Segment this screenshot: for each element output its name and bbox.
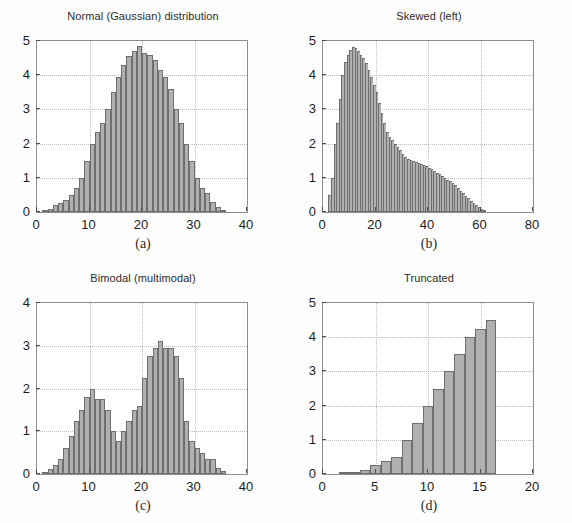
x-axis-tick-label: 40: [420, 217, 434, 232]
y-axis-tick-label: 4: [296, 67, 316, 82]
y-axis-tick-label: 2: [296, 135, 316, 150]
panel-b-caption: (b): [286, 236, 572, 252]
x-axis-tick-mark: [36, 469, 37, 473]
panel-b-plot-area: [322, 40, 534, 213]
x-axis-tick-mark: [246, 207, 247, 211]
y-axis-tick-mark: [322, 336, 326, 337]
y-axis-tick-label: 4: [10, 67, 30, 82]
x-axis-tick-mark: [89, 469, 90, 473]
panel-d-plot-area: [322, 302, 534, 475]
y-axis-tick-mark: [36, 302, 40, 303]
x-axis-tick-mark: [194, 469, 195, 473]
histogram-bar: [423, 406, 434, 474]
y-axis-tick-mark: [322, 370, 326, 371]
x-axis-tick-label: 60: [472, 217, 486, 232]
histogram-bar: [391, 457, 402, 474]
y-axis-tick-label: 1: [296, 431, 316, 446]
histogram-bar: [381, 461, 392, 474]
y-axis-tick-mark: [322, 439, 326, 440]
panel-b: Skewed (left) (b) 012345020406080: [286, 0, 572, 262]
panel-a: Normal (Gaussian) distribution (a) 01234…: [0, 0, 286, 262]
x-axis-tick-mark: [532, 207, 533, 211]
y-axis-tick-mark: [322, 302, 326, 303]
y-axis-tick-label: 5: [10, 33, 30, 48]
x-axis-tick-label: 20: [134, 479, 148, 494]
y-axis-tick-label: 5: [296, 33, 316, 48]
panel-c-caption: (c): [0, 498, 286, 514]
x-axis-tick-mark: [427, 469, 428, 473]
x-axis-tick-mark: [141, 207, 142, 211]
y-axis-tick-mark: [322, 40, 326, 41]
histogram-bar: [360, 470, 371, 474]
histogram-bar: [486, 320, 497, 474]
x-axis-tick-label: 15: [472, 479, 486, 494]
y-axis-tick-label: 3: [296, 363, 316, 378]
y-axis-tick-mark: [322, 108, 326, 109]
y-axis-tick-label: 2: [296, 397, 316, 412]
y-axis-tick-mark: [36, 211, 40, 212]
x-axis-tick-mark: [141, 469, 142, 473]
y-axis-tick-mark: [36, 388, 40, 389]
y-axis-tick-mark: [36, 143, 40, 144]
y-axis-tick-label: 0: [296, 204, 316, 219]
panel-d: Truncated (d) 01234505101520: [286, 262, 572, 523]
histogram-bar: [433, 389, 444, 475]
histogram-bar: [402, 440, 413, 474]
histogram-bar: [475, 329, 486, 474]
x-axis-tick-mark: [322, 469, 323, 473]
x-axis-tick-label: 30: [186, 217, 200, 232]
y-axis-tick-mark: [322, 177, 326, 178]
y-axis-tick-mark: [36, 177, 40, 178]
panel-c-title: Bimodal (multimodal): [0, 272, 286, 284]
histogram-bar: [349, 472, 360, 474]
y-axis-tick-label: 0: [10, 466, 30, 481]
x-axis-tick-label: 20: [134, 217, 148, 232]
x-axis-tick-label: 10: [420, 479, 434, 494]
histogram-bar: [483, 210, 486, 212]
y-axis-tick-label: 3: [10, 101, 30, 116]
panel-d-title: Truncated: [286, 272, 572, 284]
x-axis-tick-mark: [480, 469, 481, 473]
x-axis-tick-mark: [89, 207, 90, 211]
y-axis-tick-label: 1: [10, 423, 30, 438]
y-axis-tick-label: 2: [10, 135, 30, 150]
x-axis-tick-label: 40: [239, 479, 253, 494]
panel-d-caption: (d): [286, 498, 572, 514]
panel-a-caption: (a): [0, 236, 286, 252]
panel-a-title: Normal (Gaussian) distribution: [0, 10, 286, 22]
panel-c-plot-area: [36, 302, 248, 475]
y-axis-tick-label: 1: [10, 169, 30, 184]
histogram-bar: [221, 210, 226, 212]
y-axis-tick-label: 2: [10, 380, 30, 395]
y-axis-tick-label: 0: [10, 204, 30, 219]
x-axis-tick-mark: [322, 207, 323, 211]
x-axis-tick-label: 20: [367, 217, 381, 232]
histogram-bar: [412, 423, 423, 474]
y-axis-tick-label: 3: [296, 101, 316, 116]
x-axis-tick-mark: [532, 469, 533, 473]
y-axis-tick-mark: [36, 473, 40, 474]
x-axis-tick-label: 10: [81, 479, 95, 494]
histogram-bar: [465, 337, 476, 474]
x-axis-tick-label: 0: [32, 479, 39, 494]
x-axis-tick-mark: [375, 469, 376, 473]
y-axis-tick-mark: [36, 430, 40, 431]
y-axis-tick-label: 1: [296, 169, 316, 184]
y-axis-tick-label: 4: [296, 329, 316, 344]
x-axis-tick-label: 30: [186, 479, 200, 494]
panel-c: Bimodal (multimodal) (c) 01234010203040: [0, 262, 286, 523]
x-axis-tick-label: 0: [32, 217, 39, 232]
x-axis-tick-label: 10: [81, 217, 95, 232]
bar-series: [37, 41, 247, 212]
histogram-bar: [444, 371, 455, 474]
histogram-bar: [454, 354, 465, 474]
bar-series: [323, 41, 533, 212]
y-axis-tick-mark: [322, 405, 326, 406]
panel-b-title: Skewed (left): [286, 10, 572, 22]
y-axis-tick-label: 5: [296, 295, 316, 310]
x-axis-tick-label: 80: [525, 217, 539, 232]
y-axis-tick-label: 4: [10, 295, 30, 310]
y-axis-tick-mark: [322, 74, 326, 75]
histogram-bar: [221, 471, 226, 474]
x-axis-tick-mark: [375, 207, 376, 211]
